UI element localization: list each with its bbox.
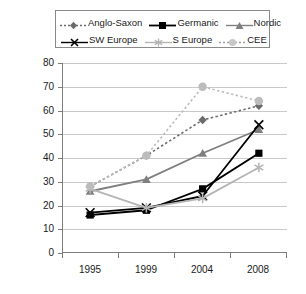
legend-label-nordic: Nordic [253,18,281,28]
y-tick-label-40: 40 [14,153,54,163]
legend-label-anglo-saxon: Anglo-Saxon [87,18,142,28]
cee-marker-icon [219,34,246,45]
x-tick-label-2004: 2004 [172,264,232,275]
legend-row-2: SW Europe S Europe [60,31,265,48]
x-tick-mark-3 [230,253,231,258]
legend-item-anglo-saxon[interactable]: Anglo-Saxon [60,17,142,28]
y-tick-label-80: 80 [14,58,54,68]
germanic-marker-icon [149,17,176,28]
y-tick-label-70: 70 [14,82,54,92]
anglo-saxon-marker-icon [60,17,87,28]
y-tick-label-10: 10 [14,224,54,234]
series-nordic [86,125,264,195]
s-europe-marker-icon [145,34,172,45]
legend-item-sw-europe[interactable]: SW Europe [61,34,138,45]
x-tick-mark-1 [118,253,119,258]
legend-item-germanic[interactable]: Germanic [149,17,218,28]
legend-item-cee[interactable]: CEE [219,34,267,45]
x-tick-label-2008: 2008 [228,264,288,275]
y-tick-label-30: 30 [14,177,54,187]
series-anglo-saxon [86,102,263,191]
series-layer [62,63,287,253]
x-tick-label-1999: 1999 [116,264,176,275]
plot-area [62,63,287,253]
legend-label-s-europe: S Europe [172,35,213,45]
series-s-europe [86,163,264,213]
series-cee [86,83,263,191]
chart-legend: Anglo-Saxon Germanic Nor [55,10,270,48]
x-tick-mark-0 [62,253,63,258]
x-tick-mark-4 [286,253,287,258]
legend-label-germanic: Germanic [176,18,218,28]
y-tick-label-0: 0 [14,248,54,258]
legend-item-nordic[interactable]: Nordic [226,17,281,28]
y-tick-label-20: 20 [14,201,54,211]
y-tick-label-50: 50 [14,129,54,139]
y-tick-label-60: 60 [14,106,54,116]
legend-label-cee: CEE [246,35,267,45]
nordic-marker-icon [226,17,253,28]
sw-europe-marker-icon [61,34,88,45]
x-tick-mark-2 [174,253,175,258]
series-germanic [87,150,263,219]
x-tick-label-1995: 1995 [60,264,120,275]
legend-label-sw-europe: SW Europe [88,35,138,45]
chart-container: Anglo-Saxon Germanic Nor [0,0,306,294]
legend-item-s-europe[interactable]: S Europe [145,34,213,45]
legend-row-1: Anglo-Saxon Germanic Nor [60,14,265,31]
